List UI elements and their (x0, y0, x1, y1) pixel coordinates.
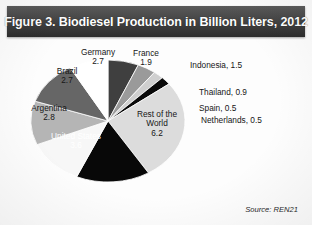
label-brazil-value: 2.7 (43, 76, 91, 85)
label-thailand: Thailand, 0.9 (199, 88, 247, 97)
label-united-states-value: 3.6 (37, 141, 115, 150)
label-indonesia: Indonesia, 1.5 (190, 61, 242, 70)
label-rest-of-world-value: 6.2 (126, 129, 188, 138)
label-brazil: Brazil 2.7 (43, 67, 91, 86)
label-france: France 1.9 (124, 49, 168, 68)
label-argentina-value: 2.8 (18, 113, 80, 122)
pie-chart-area: Indonesia, 1.5 Thailand, 0.9 Spain, 0.5 … (0, 37, 312, 225)
label-france-value: 1.9 (124, 58, 168, 67)
label-rest-of-world: Rest of the World 6.2 (126, 110, 188, 138)
figure-container: Figure 3. Biodiesel Production in Billio… (0, 0, 312, 225)
label-netherlands: Netherlands, 0.5 (201, 116, 262, 125)
figure-title-bar: Figure 3. Biodiesel Production in Billio… (7, 6, 305, 37)
label-germany: Germany 2.7 (70, 48, 126, 67)
label-united-states: United States 3.6 (37, 132, 115, 151)
label-germany-value: 2.7 (70, 57, 126, 66)
page-title: Figure 3. Biodiesel Production in Billio… (4, 15, 308, 29)
source-attribution: Source: REN21 (245, 205, 298, 214)
label-spain: Spain, 0.5 (199, 104, 236, 113)
label-argentina: Argentina 2.8 (18, 104, 80, 123)
